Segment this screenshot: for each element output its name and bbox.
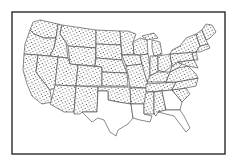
state-florida [158, 110, 190, 132]
state-new-york [170, 34, 200, 54]
state-wyoming [68, 46, 96, 66]
state-mississippi [144, 92, 154, 114]
state-south-dakota [96, 44, 122, 60]
state-ohio [158, 54, 172, 72]
state-arizona [50, 85, 76, 112]
us-stipple-map [0, 0, 235, 168]
state-new-mexico [74, 86, 98, 114]
state-colorado [76, 65, 102, 86]
states-layer [23, 20, 216, 136]
state-wisconsin [133, 38, 148, 55]
state-kansas [102, 72, 128, 86]
state-north-dakota [96, 30, 121, 45]
